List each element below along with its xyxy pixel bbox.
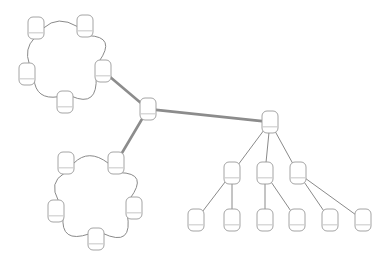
node-l6[interactable] — [355, 209, 371, 231]
node-m3[interactable] — [290, 162, 306, 184]
link-r0-m2 — [266, 133, 269, 162]
node-body[interactable] — [289, 209, 305, 231]
node-l4[interactable] — [289, 209, 305, 231]
node-body[interactable] — [88, 228, 104, 250]
node-body[interactable] — [262, 111, 278, 133]
link-r0-m3 — [275, 131, 293, 164]
link-hub-b2 — [121, 118, 143, 155]
node-b4[interactable] — [88, 228, 104, 250]
node-l5[interactable] — [322, 209, 338, 231]
topology-diagram-canvas — [0, 0, 385, 263]
link-m3-l5 — [303, 181, 324, 212]
node-t5[interactable] — [19, 63, 35, 85]
node-hub[interactable] — [140, 98, 156, 120]
link-b4-b5 — [63, 216, 89, 237]
node-l2[interactable] — [224, 209, 240, 231]
link-t4-t5 — [34, 79, 58, 97]
node-body[interactable] — [28, 17, 44, 39]
node-l3[interactable] — [257, 209, 273, 231]
node-body[interactable] — [140, 98, 156, 120]
link-t3-t4 — [72, 77, 96, 100]
node-l1[interactable] — [188, 209, 204, 231]
link-t2-t3 — [89, 36, 106, 62]
node-m2[interactable] — [257, 162, 273, 184]
link-r0-m1 — [238, 130, 265, 166]
link-m2-l4 — [270, 181, 291, 212]
node-body[interactable] — [95, 60, 111, 82]
link-t5-t1 — [27, 39, 34, 64]
node-b2[interactable] — [108, 152, 124, 174]
node-body[interactable] — [48, 200, 64, 222]
node-r0[interactable] — [262, 111, 278, 133]
node-t3[interactable] — [95, 60, 111, 82]
node-body[interactable] — [290, 162, 306, 184]
node-body[interactable] — [58, 152, 74, 174]
node-body[interactable] — [57, 91, 73, 113]
node-body[interactable] — [19, 63, 35, 85]
node-body[interactable] — [224, 162, 240, 184]
node-layer — [19, 15, 371, 250]
node-t4[interactable] — [57, 91, 73, 113]
node-body[interactable] — [322, 209, 338, 231]
node-body[interactable] — [77, 15, 93, 37]
link-b1-b2 — [74, 156, 108, 163]
node-body[interactable] — [108, 152, 124, 174]
link-layer — [27, 21, 356, 238]
node-body[interactable] — [257, 162, 273, 184]
topology-graph — [0, 0, 385, 263]
link-hub-r0 — [156, 110, 262, 121]
node-body[interactable] — [188, 209, 204, 231]
node-body[interactable] — [126, 197, 142, 219]
node-b5[interactable] — [48, 200, 64, 222]
link-t3-hub — [110, 77, 141, 103]
link-b3-b4 — [103, 214, 128, 238]
node-t2[interactable] — [77, 15, 93, 37]
node-body[interactable] — [355, 209, 371, 231]
link-m1-l1 — [202, 181, 226, 213]
node-b3[interactable] — [126, 197, 142, 219]
node-body[interactable] — [257, 209, 273, 231]
node-m1[interactable] — [224, 162, 240, 184]
node-body[interactable] — [224, 209, 240, 231]
link-b5-b1 — [54, 174, 63, 201]
node-t1[interactable] — [28, 17, 44, 39]
node-b1[interactable] — [58, 152, 74, 174]
link-b2-b3 — [120, 173, 138, 199]
link-t1-t2 — [44, 21, 77, 28]
